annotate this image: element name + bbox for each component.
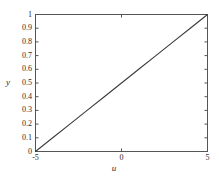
y-tick-label-5: 0.5 (8, 79, 32, 87)
y-tick-label-9: 0.9 (8, 24, 32, 32)
y-tick-label-1: 0.1 (8, 134, 32, 142)
y-tick-label-2: 0.2 (8, 120, 32, 128)
y-tick-label-0: 0 (8, 148, 32, 156)
y-axis-title: y (6, 78, 10, 87)
x-tick-label-0: -5 (32, 154, 39, 162)
y-tick-label-4: 0.4 (8, 93, 32, 101)
y-tick-label-10: 1 (8, 11, 32, 19)
x-axis-title: u (112, 164, 117, 173)
figure-canvas: 00.10.20.30.40.50.60.70.80.91-505 y u (0, 0, 219, 180)
y-tick-label-7: 0.7 (8, 52, 32, 60)
y-tick-label-6: 0.6 (8, 65, 32, 73)
y-tick-label-3: 0.3 (8, 106, 32, 114)
y-tick-label-8: 0.8 (8, 38, 32, 46)
x-tick-label-1: 0 (120, 154, 124, 162)
x-tick-label-2: 5 (206, 154, 210, 162)
